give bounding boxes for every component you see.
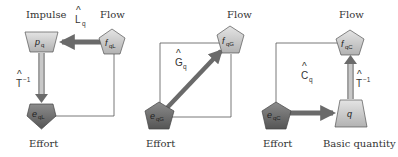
svg-text:qG: qG <box>156 116 164 122</box>
effort-label: Effort <box>146 138 175 149</box>
svg-text:q: q <box>183 63 187 71</box>
node-impulse-pq: p q <box>25 32 58 52</box>
operator-Gq: ^ G q <box>175 48 187 71</box>
svg-text:qL: qL <box>109 43 116 49</box>
svg-text:e: e <box>267 110 272 120</box>
basic-quantity-label: Basic quantity <box>323 138 396 149</box>
energy-variable-diagram: Impulse Flow Effort ^ L q ^ T −1 p <box>0 0 398 157</box>
arrow-T-inverse <box>344 55 357 99</box>
svg-text:e: e <box>150 111 155 121</box>
effort-label: Effort <box>29 138 58 149</box>
panel-conductive: Flow Effort ^ G q f qG e qG <box>145 9 252 149</box>
svg-text:q: q <box>41 42 44 48</box>
node-effort-eqL: e qL <box>27 104 56 129</box>
svg-text:−1: −1 <box>23 76 31 83</box>
node-flow-fqG: f qG <box>217 26 244 53</box>
node-effort-eqC: e qC <box>262 102 291 129</box>
svg-text:qC: qC <box>345 44 353 50</box>
svg-text:q: q <box>82 20 86 28</box>
arrow-T-inverse <box>35 53 48 103</box>
effort-label: Effort <box>263 138 292 149</box>
impulse-label: Impulse <box>26 9 67 20</box>
svg-text:p: p <box>34 37 40 47</box>
node-flow-fqL: f qL <box>99 29 125 54</box>
svg-text:e: e <box>32 109 37 119</box>
svg-text:L: L <box>75 14 81 25</box>
operator-Cq: ^ C q <box>301 61 313 84</box>
flow-label: Flow <box>227 9 252 20</box>
svg-text:T: T <box>16 78 22 89</box>
operator-T-inverse: ^ T −1 <box>16 69 31 89</box>
node-flow-fqC: f qC <box>336 30 364 55</box>
svg-text:C: C <box>301 70 308 81</box>
svg-text:q: q <box>309 76 313 84</box>
flow-label: Flow <box>100 9 125 20</box>
svg-text:T: T <box>356 78 362 89</box>
svg-text:G: G <box>175 57 183 68</box>
operator-Lq: ^ L q <box>75 5 86 28</box>
arrow-Gq <box>165 51 221 110</box>
operator-T-inverse: ^ T −1 <box>356 69 371 89</box>
flow-label: Flow <box>339 9 364 20</box>
node-basic-quantity-q: q <box>335 100 367 127</box>
svg-text:qC: qC <box>273 115 281 121</box>
svg-text:qG: qG <box>226 41 234 47</box>
svg-text:−1: −1 <box>363 76 371 83</box>
panel-capacitive: Flow Effort Basic quantity ^ C q ^ T −1 … <box>262 9 396 149</box>
connector-line <box>54 54 114 116</box>
svg-text:q: q <box>347 109 352 119</box>
svg-text:qL: qL <box>38 114 45 120</box>
panel-inductive: Impulse Flow Effort ^ L q ^ T −1 p <box>16 5 125 149</box>
